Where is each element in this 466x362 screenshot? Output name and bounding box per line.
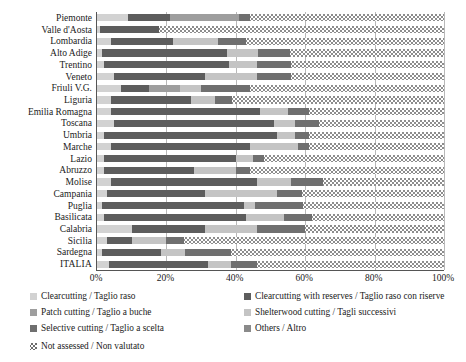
bar-segment-shelterwood	[227, 49, 258, 56]
bar-segment-shelterwood	[244, 202, 254, 209]
x-axis-tick-20: 20%	[157, 273, 174, 284]
bar-segment-shelterwood	[205, 73, 257, 80]
bar-row	[97, 261, 444, 268]
bar-row	[97, 214, 444, 221]
bar-segment-clearcutting_reserves	[111, 38, 173, 45]
bar-segment-clearcutting_reserves	[114, 73, 204, 80]
legend-item-patch_cutting[interactable]: Patch cutting / Taglio a buche	[30, 307, 151, 318]
legend-item-label: Selective cutting / Taglio a scelta	[41, 323, 164, 334]
bar-segment-clearcutting_reserves	[107, 237, 131, 244]
bar-segment-selective_cutting	[166, 237, 183, 244]
bar-segment-clearcutting_reserves	[104, 214, 246, 221]
legend-item-shelterwood[interactable]: Shelterwood cutting / Tagli successivi	[244, 307, 396, 318]
y-axis-label-emilia-romagna: Emilia Romagna	[28, 107, 92, 117]
bar-segment-clearcutting_reserves	[121, 85, 149, 92]
y-axis-label-valle-d-aosta: Valle d'Aosta	[41, 25, 92, 35]
bar-segment-clearcutting	[97, 167, 104, 174]
bar-segment-clearcutting	[97, 143, 111, 150]
bar-segment-shelterwood	[191, 96, 215, 103]
legend-item-label: Clearcutting / Taglio raso	[41, 291, 135, 302]
y-axis-label-puglia: Puglia	[68, 201, 92, 211]
bar-segment-shelterwood	[208, 261, 231, 268]
bar-segment-clearcutting	[97, 214, 104, 221]
bar-row	[97, 26, 444, 33]
bar-row	[97, 132, 444, 139]
bar-row	[97, 167, 444, 174]
legend-item-others[interactable]: Others / Altro	[244, 323, 306, 334]
bar-row	[97, 85, 444, 92]
y-axis-label-alto-adige: Alto Adige	[50, 48, 92, 58]
y-axis-label-campania: Campania	[53, 189, 92, 199]
bar-row	[97, 237, 444, 244]
y-axis-label-sardegna: Sardegna	[57, 247, 92, 257]
bar-segment-not_assessed	[159, 26, 444, 33]
legend-item-clearcutting[interactable]: Clearcutting / Taglio raso	[30, 291, 135, 302]
y-axis-label-molise: Molise	[66, 177, 92, 187]
bar-segment-selective_cutting	[257, 225, 306, 232]
legend-item-clearcutting_reserves[interactable]: Clearcutting with reserves / Taglio raso…	[244, 291, 444, 302]
bar-row	[97, 38, 444, 45]
bar-segment-shelterwood	[173, 38, 218, 45]
bar-segment-clearcutting_reserves	[104, 155, 236, 162]
bar-segment-not_assessed	[309, 108, 444, 115]
bar-segment-not_assessed	[250, 85, 444, 92]
x-axis-labels: 0%20%40%60%80%100%	[0, 273, 466, 287]
bar-segment-shelterwood	[229, 61, 257, 68]
x-axis-tick-60: 60%	[295, 273, 312, 284]
bar-segment-clearcutting_reserves	[104, 132, 278, 139]
bar-segment-shelterwood	[205, 225, 257, 232]
y-axis-label-abruzzo: Abruzzo	[59, 165, 92, 175]
bar-segment-clearcutting	[97, 108, 111, 115]
y-axis-label-basilicata: Basilicata	[55, 212, 92, 222]
gridline-100	[444, 12, 445, 270]
bar-segment-clearcutting	[97, 14, 128, 21]
bar-row	[97, 120, 444, 127]
bar-segment-selective_cutting	[239, 14, 249, 21]
bar-segment-shelterwood	[161, 249, 185, 256]
bar-segment-selective_cutting	[255, 202, 304, 209]
x-axis-tick-0: 0%	[90, 273, 103, 284]
bar-segment-clearcutting_reserves	[107, 190, 204, 197]
legend-item-label: Others / Altro	[255, 323, 306, 334]
bar-segment-clearcutting_reserves	[102, 249, 161, 256]
legend-item-label: Clearcutting with reserves / Taglio raso…	[255, 291, 444, 302]
bar-row	[97, 249, 444, 256]
bar-row	[97, 14, 444, 21]
bar-segment-not_assessed	[250, 14, 444, 21]
bar-segment-clearcutting_reserves	[100, 26, 159, 33]
bar-segment-clearcutting_reserves	[114, 120, 274, 127]
bar-segment-clearcutting	[97, 38, 111, 45]
legend-swatch-icon	[244, 309, 251, 316]
bar-segment-not_assessed	[257, 261, 444, 268]
legend-swatch-icon	[30, 309, 37, 316]
bar-segment-clearcutting_reserves	[104, 61, 229, 68]
bar-segment-selective_cutting	[231, 261, 257, 268]
bar-segment-not_assessed	[319, 120, 444, 127]
bar-segment-selective_cutting	[258, 49, 289, 56]
bar-segment-not_assessed	[290, 49, 444, 56]
legend-item-not_assessed[interactable]: Not assessed / Non valutato	[30, 341, 144, 352]
chart-legend: Clearcutting / Taglio rasoPatch cutting …	[30, 291, 460, 357]
legend-item-selective_cutting[interactable]: Selective cutting / Taglio a scelta	[30, 323, 164, 334]
bar-segment-selective_cutting	[201, 85, 250, 92]
bar-segment-not_assessed	[305, 225, 444, 232]
bar-segment-selective_cutting	[295, 132, 309, 139]
bar-segment-not_assessed	[291, 61, 444, 68]
bar-segment-clearcutting_reserves	[132, 225, 205, 232]
bar-segment-clearcutting	[97, 132, 104, 139]
bar-segment-clearcutting	[97, 178, 111, 185]
bar-segment-shelterwood	[132, 237, 167, 244]
bar-segment-not_assessed	[246, 38, 444, 45]
x-axis-line	[96, 270, 444, 271]
bar-segment-shelterwood	[194, 167, 236, 174]
x-axis-tick-100: 100%	[432, 273, 454, 284]
bar-segment-clearcutting_reserves	[109, 261, 208, 268]
stacked-bar-chart: PiemonteValle d'AostaLombardiaAlto Adige…	[0, 0, 466, 362]
bar-segment-shelterwood	[246, 214, 284, 221]
bar-row	[97, 143, 444, 150]
bar-segment-clearcutting	[97, 73, 114, 80]
bar-segment-clearcutting_reserves	[102, 49, 227, 56]
bar-segment-not_assessed	[302, 190, 444, 197]
bar-rows	[97, 12, 444, 270]
legend-swatch-icon	[30, 325, 37, 332]
